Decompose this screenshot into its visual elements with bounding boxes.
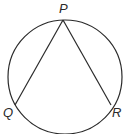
chord-pq	[15, 20, 63, 105]
label-q: Q	[3, 105, 13, 120]
circle	[8, 20, 122, 134]
label-p: P	[59, 1, 68, 16]
circle-diagram: P Q R	[0, 0, 130, 134]
chord-pr	[63, 20, 111, 105]
label-r: R	[112, 105, 121, 120]
